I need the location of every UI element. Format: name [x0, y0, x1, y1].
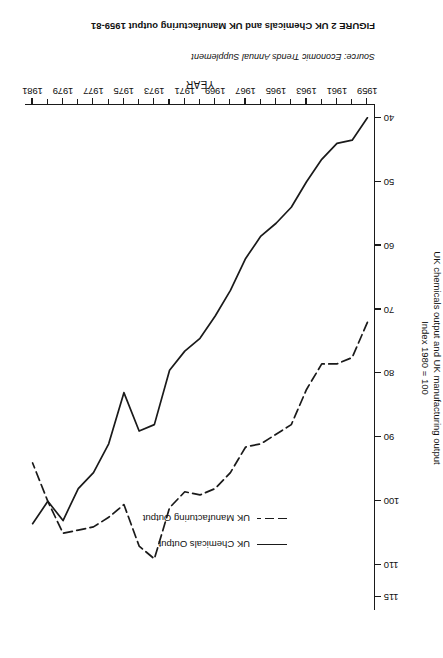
x-tick [123, 98, 124, 105]
x-tick [168, 99, 169, 105]
y-tick [375, 564, 381, 565]
y-tick [375, 596, 381, 597]
y-tick-label: 70 [384, 304, 394, 315]
x-tick [62, 98, 63, 105]
x-tick [351, 99, 352, 105]
x-tick [290, 99, 291, 105]
y-tick [375, 308, 381, 309]
source-label: Source: [344, 52, 375, 62]
y-tick-label: 115 [384, 592, 399, 603]
x-tick [260, 99, 261, 105]
y-tick-label: 100 [384, 496, 399, 507]
x-tick [214, 98, 215, 105]
figure-caption: FIGURE 2 UK Chemicals and UK Manufacturi… [5, 21, 375, 32]
chart-legend: UK Chemicals Output UK Manufacturing Out… [143, 498, 287, 550]
x-tick [244, 98, 245, 105]
x-tick [336, 98, 337, 105]
source-note: Source: Economic Trends Annual Supplemen… [191, 52, 375, 62]
legend-swatch-dashed-icon [257, 518, 287, 520]
y-tick-label: 110 [384, 560, 399, 571]
x-tick [31, 98, 32, 105]
legend-item-chemicals: UK Chemicals Output [143, 539, 287, 550]
legend-label-chemicals: UK Chemicals Output [159, 539, 250, 550]
y-tick-label: 50 [384, 176, 394, 187]
x-tick [108, 99, 109, 105]
legend-label-manufacturing: UK Manufacturing Output [143, 513, 250, 524]
y-tick-label: 80 [384, 368, 394, 379]
y-tick [375, 117, 381, 118]
y-tick-label: 40 [384, 112, 394, 123]
y-tick [375, 436, 381, 437]
x-tick [153, 98, 154, 105]
x-tick [47, 99, 48, 105]
x-tick [229, 99, 230, 105]
y-tick-label: 60 [384, 240, 394, 251]
x-tick [321, 99, 322, 105]
x-tick [305, 98, 306, 105]
x-tick [199, 99, 200, 105]
x-tick [366, 98, 367, 105]
source-text: Economic Trends Annual Supplement [191, 52, 341, 62]
legend-swatch-solid-icon [257, 544, 287, 545]
y-tick [375, 244, 381, 245]
x-tick [92, 98, 93, 105]
y-axis-title-line1: UK chemicals output and UK manufacturing… [431, 251, 443, 464]
y-tick [375, 181, 381, 182]
series-line-chemicals [33, 118, 368, 524]
y-axis-title-line2: Index 1980 = 100 [419, 251, 431, 464]
x-axis-title: YEAR [25, 79, 375, 90]
legend-item-manufacturing: UK Manufacturing Output [143, 513, 287, 524]
y-tick-label: 90 [384, 432, 394, 443]
x-tick [77, 99, 78, 105]
y-tick [375, 500, 381, 501]
y-tick [375, 372, 381, 373]
x-tick [138, 99, 139, 105]
x-tick [275, 98, 276, 105]
x-tick [184, 98, 185, 105]
